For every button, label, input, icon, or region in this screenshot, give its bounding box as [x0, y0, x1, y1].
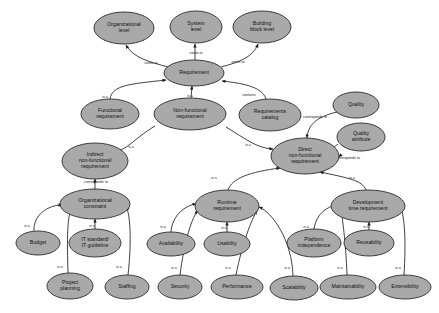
edge-label: corresponds to	[336, 156, 360, 160]
node-org_constraint[interactable]: Organizationalconstraint	[60, 189, 130, 219]
node-extensibility[interactable]: Extensibility	[379, 275, 431, 299]
edge-label: is a	[160, 225, 166, 229]
node-label: Availability	[159, 240, 184, 246]
node-dev_time_req[interactable]: Developmenttime requirement	[331, 190, 405, 222]
edge-label: is a	[89, 224, 95, 228]
edge-label: exists at	[189, 51, 202, 55]
edge-label: is a	[24, 224, 30, 228]
node-label: Maintainability	[332, 283, 365, 289]
node-runtime_req[interactable]: Runtimerequirement	[195, 190, 259, 222]
node-functional_req[interactable]: Functionalrequirement	[81, 99, 139, 129]
node-performance[interactable]: Performance	[211, 275, 263, 299]
node-label: Requirement	[179, 69, 209, 75]
edge-label: is a	[225, 266, 231, 270]
edge-label: is a	[284, 266, 290, 270]
node-label: Performance	[222, 283, 252, 289]
node-label: Extensibility	[391, 283, 419, 289]
node-availability[interactable]: Availability	[147, 232, 195, 256]
diagram-canvas: exists atexists atexists atis ais aconta…	[0, 0, 439, 313]
node-label: Functionalrequirement	[96, 107, 124, 119]
node-platform_indep[interactable]: Platformindependence	[287, 229, 341, 257]
edge-label: is a	[221, 226, 227, 230]
edge-label: is a	[395, 266, 401, 270]
edge-label: is a	[128, 145, 134, 149]
edge-extensibility-to-dev_time_req	[400, 207, 405, 275]
node-label: Security	[171, 283, 190, 289]
edge-label: exists at	[144, 61, 157, 65]
node-usability[interactable]: Usability	[204, 232, 250, 256]
edge-label: is a	[102, 95, 108, 99]
node-label: Qualityattribute	[352, 130, 371, 142]
edge-label: corresponds to	[84, 180, 108, 184]
node-direct_nfr[interactable]: Directnon-functionalrequirement	[271, 138, 339, 174]
node-nonfunctional_req[interactable]: Non-functionalrequirement	[154, 98, 226, 130]
requirement-concept-map: exists atexists atexists atis ais aconta…	[0, 0, 439, 313]
node-req_catalog[interactable]: Requirementscatalog	[239, 99, 301, 131]
edge-label: is a	[211, 176, 217, 180]
edge-label: is a	[57, 265, 63, 269]
node-label: Staffing	[118, 283, 136, 289]
edge-budget-to-org_constraint	[34, 205, 62, 231]
nodes-layer: OrganizationallevelSystemlevelBuildingbl…	[16, 11, 431, 300]
edge-nonfunctional_req-to-indirect_nfr	[113, 126, 155, 152]
node-label: Reusability	[356, 239, 382, 245]
edge-label: is a	[337, 266, 343, 270]
edge-availability-to-runtime_req	[171, 204, 196, 232]
node-budget[interactable]: Budget	[16, 231, 60, 255]
node-quality_attr[interactable]: Qualityattribute	[337, 123, 385, 151]
node-scalability[interactable]: Scalability	[270, 276, 318, 300]
node-label: Usability	[217, 240, 237, 246]
node-label: Non-functionalrequirement	[173, 107, 206, 119]
edge-label: is a	[171, 266, 177, 270]
edge-label: contains	[242, 93, 256, 97]
edge-label: is a	[245, 143, 251, 147]
edge-label: is a	[349, 176, 355, 180]
edge-requirement-to-functional_req	[110, 80, 166, 99]
node-label: Buildingblock level	[250, 20, 274, 32]
edge-direct_nfr-to-runtime_req	[228, 168, 280, 190]
node-building_block[interactable]: Buildingblock level	[233, 11, 291, 43]
node-label: Quality	[348, 101, 365, 107]
node-it_standard[interactable]: IT standard/IT guideline	[69, 229, 121, 257]
edge-label: corresponds to	[303, 115, 327, 119]
node-indirect_nfr[interactable]: Indirectnon-functionalrequirement	[62, 143, 128, 179]
edge-label: is a	[116, 265, 122, 269]
node-system_level[interactable]: Systemlevel	[170, 11, 222, 43]
node-label: Developmenttime requirement	[349, 199, 388, 211]
node-quality[interactable]: Quality	[333, 92, 379, 118]
node-label: IT standard/IT guideline	[81, 236, 109, 248]
edge-label: exists at	[231, 60, 244, 64]
edge-label: is a	[303, 225, 309, 229]
edge-direct_nfr-to-dev_time_req	[320, 172, 366, 190]
edge-label: is a	[363, 225, 369, 229]
node-reusability[interactable]: Reusability	[344, 230, 394, 256]
edge-label: is a	[187, 94, 193, 98]
node-project_planning[interactable]: Projectplanning	[47, 273, 93, 299]
node-label: Projectplanning	[60, 279, 80, 291]
edge-staffing-to-org_constraint	[126, 207, 130, 275]
node-security[interactable]: Security	[158, 275, 202, 299]
node-staffing[interactable]: Staffing	[105, 275, 149, 299]
node-org_level[interactable]: Organizationallevel	[94, 12, 154, 44]
node-label: Scalability	[282, 284, 306, 290]
node-label: Budget	[30, 239, 47, 245]
node-maintainability[interactable]: Maintainability	[320, 275, 376, 299]
node-requirement[interactable]: Requirement	[164, 60, 224, 86]
